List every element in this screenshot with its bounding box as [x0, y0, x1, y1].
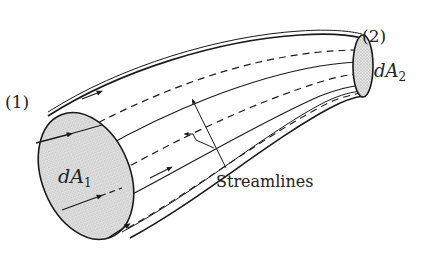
tube-bottom-wall — [130, 96, 364, 238]
streamline-dashed-1 — [88, 50, 362, 128]
section-1-label: (1) — [5, 92, 29, 112]
section-2-label: (2) — [362, 26, 386, 46]
area-2-main: dA — [374, 60, 399, 81]
area-2-label: dA2 — [374, 60, 406, 84]
area-1-label: dA1 — [58, 165, 92, 190]
area-1-subscript: 1 — [84, 176, 92, 190]
area-2-subscript: 2 — [399, 70, 407, 84]
streamline-dashed-2 — [110, 74, 362, 177]
streamlines-label: Streamlines — [216, 172, 313, 191]
leader-line-upper — [193, 101, 226, 168]
area-1-main: dA — [58, 165, 84, 187]
flow-arrow-6 — [150, 168, 170, 178]
tube-bottom-wall-inner — [122, 91, 362, 232]
